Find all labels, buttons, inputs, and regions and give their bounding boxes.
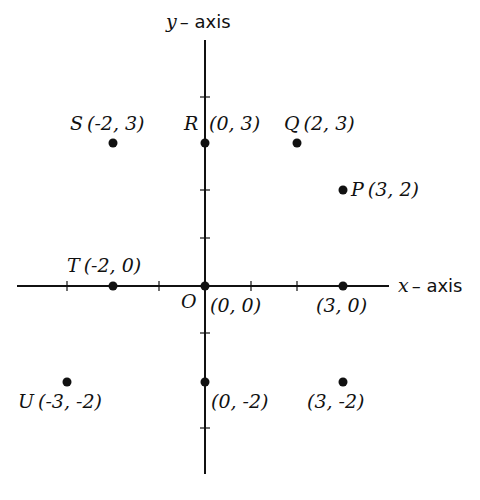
origin-dot [201, 282, 210, 291]
coordinate-plane: y– axis x– axis S(-2, 3) R (0, 3) Q(2, 3… [0, 0, 480, 500]
label-0-0: (0, 0) [210, 294, 261, 316]
label-0-neg2: (0, -2) [211, 390, 269, 412]
label-3-neg2: (3, -2) [307, 390, 365, 412]
label-u: U(-3, -2) [18, 390, 102, 412]
y-axis-label: y– axis [165, 10, 231, 32]
label-q: Q(2, 3) [284, 112, 355, 134]
point-3-0-dot [339, 282, 348, 291]
point-u-dot [63, 378, 72, 387]
label-t: T(-2, 0) [67, 254, 141, 276]
point-0-neg2-dot [201, 378, 210, 387]
label-3-0: (3, 0) [316, 294, 367, 316]
label-s: S(-2, 3) [70, 112, 145, 134]
label-r-name: R [183, 112, 198, 134]
label-origin: O [181, 290, 197, 312]
point-q-dot [293, 139, 302, 148]
point-p-dot [339, 186, 348, 195]
point-s-dot [109, 139, 118, 148]
point-3-neg2-dot [339, 378, 348, 387]
label-r-coords: (0, 3) [209, 112, 260, 134]
point-r-dot [201, 139, 210, 148]
point-t-dot [109, 282, 118, 291]
label-p: P(3, 2) [350, 178, 419, 200]
x-axis-label: x– axis [398, 274, 463, 296]
